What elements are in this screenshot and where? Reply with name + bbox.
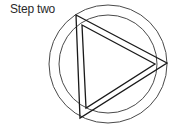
triangle-circle-diagram — [0, 0, 170, 127]
outer-triangle — [76, 15, 167, 118]
outer-circle — [49, 5, 167, 123]
inner-circle — [59, 15, 157, 113]
